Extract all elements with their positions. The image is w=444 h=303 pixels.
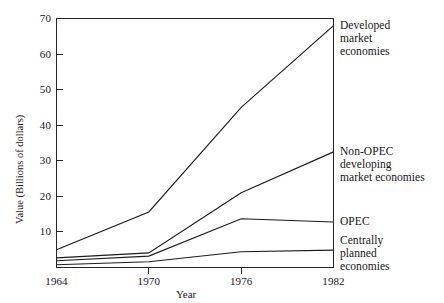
y-tick-label-50: 50 bbox=[22, 84, 51, 95]
y-axis-ticks bbox=[57, 19, 63, 232]
series-label-non-opec-developing-market-economies: Non-OPEC developing market economies bbox=[340, 145, 425, 185]
y-tick-label-70: 70 bbox=[22, 13, 51, 24]
y-tick-label-40: 40 bbox=[22, 120, 51, 131]
y-tick-label-10: 10 bbox=[22, 226, 51, 237]
series-line-developed-market-economies bbox=[57, 26, 334, 250]
y-axis-title: Value (Billions of dollars) bbox=[14, 115, 25, 224]
x-axis-ticks bbox=[149, 268, 241, 274]
series-label-opec: OPEC bbox=[340, 215, 370, 228]
y-tick-label-60: 60 bbox=[22, 49, 51, 60]
x-tick-label-1970: 1970 bbox=[129, 276, 169, 287]
series-label-developed-market-economies: Developed market economies bbox=[340, 19, 390, 59]
x-tick-label-1964: 1964 bbox=[37, 276, 77, 287]
series-line-opec bbox=[57, 219, 334, 261]
y-tick-label-30: 30 bbox=[22, 155, 51, 166]
line-chart: 70 60 50 40 30 20 10 1964 1970 1976 1982… bbox=[0, 0, 444, 303]
x-tick-label-1976: 1976 bbox=[221, 276, 261, 287]
axis-frame bbox=[57, 19, 334, 268]
series-line-centrally-planned-economies bbox=[57, 250, 334, 265]
y-tick-label-20: 20 bbox=[22, 191, 51, 202]
series-label-centrally-planned-economies: Centrally planned economies bbox=[340, 234, 390, 274]
x-tick-label-1982: 1982 bbox=[314, 276, 354, 287]
series-lines bbox=[57, 26, 334, 265]
x-axis-title: Year bbox=[176, 288, 196, 300]
series-line-non-opec-developing-market-economies bbox=[57, 152, 334, 258]
